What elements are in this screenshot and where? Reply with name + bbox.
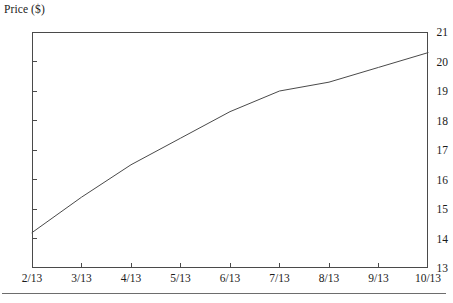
x-axis-tick-label: 10/13	[398, 272, 453, 284]
y-axis-tick-marks	[32, 62, 37, 239]
data-series-group	[32, 53, 428, 233]
x-axis-tick-label: 2/13	[2, 272, 62, 284]
x-axis-tick-label: 4/13	[101, 272, 161, 284]
y-axis-label: Price ($)	[4, 2, 45, 16]
footer-rule	[2, 293, 446, 294]
x-axis-tick-label: 8/13	[299, 272, 359, 284]
x-axis-tick-label: 9/13	[349, 272, 409, 284]
x-axis-tick-label: 3/13	[52, 272, 112, 284]
plot-canvas	[32, 32, 428, 268]
x-axis-tick-label: 7/13	[250, 272, 310, 284]
x-axis-tick-label: 5/13	[151, 272, 211, 284]
x-axis-tick-marks	[82, 263, 379, 268]
x-axis-tick-label: 6/13	[200, 272, 260, 284]
